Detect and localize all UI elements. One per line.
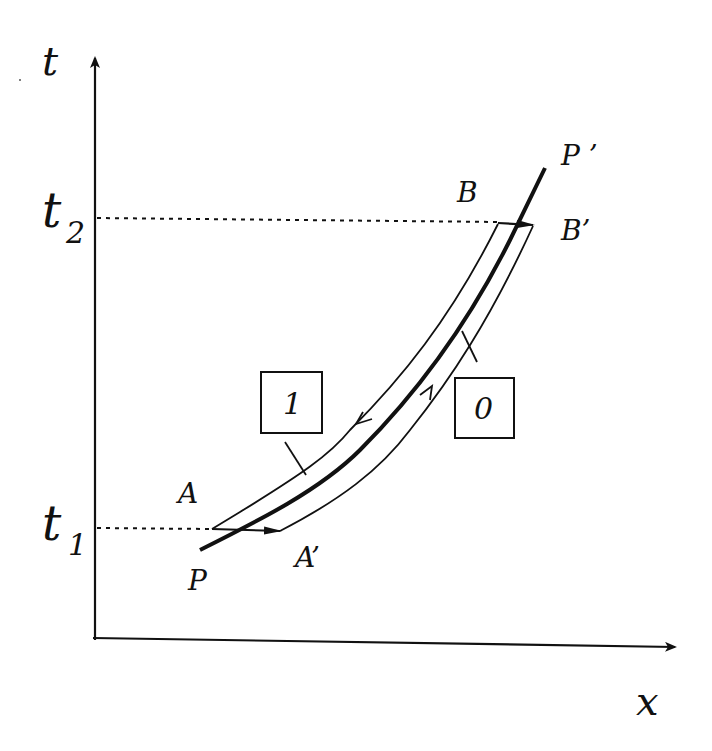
t1-label: t 1 (42, 495, 87, 562)
worldline-P (200, 168, 545, 550)
strip-left-edge (212, 224, 498, 529)
label-P: P (187, 564, 208, 597)
t-axis-label: t (42, 38, 59, 84)
label-B-prime: B’ (560, 214, 590, 247)
box-1-leader (285, 442, 306, 475)
spacetime-diagram: t x t 2 t 1 1 0 A A’ B B’ P P ’ (0, 0, 712, 751)
box-1: 1 (261, 372, 322, 475)
label-P-prime: P ’ (560, 139, 598, 172)
svg-text:1: 1 (283, 386, 302, 421)
label-B: B (456, 176, 478, 209)
box-0: 0 (455, 331, 514, 438)
svg-text:1: 1 (68, 527, 87, 562)
svg-text:t: t (42, 495, 62, 551)
x-axis (93, 638, 675, 647)
t1-dotted-line (97, 528, 212, 529)
t2-label: t 2 (42, 182, 85, 250)
label-A: A (175, 477, 198, 510)
bottom-arrow-A-to-Aprime (212, 529, 280, 531)
x-axis-label: x (636, 678, 659, 724)
svg-text:2: 2 (65, 215, 85, 250)
svg-text:0: 0 (474, 391, 493, 426)
label-A-prime: A’ (292, 541, 320, 574)
t2-dotted-line (97, 218, 500, 222)
up-arrow-on-right-edge (420, 386, 432, 400)
speck (19, 79, 21, 81)
svg-text:t: t (42, 182, 62, 238)
